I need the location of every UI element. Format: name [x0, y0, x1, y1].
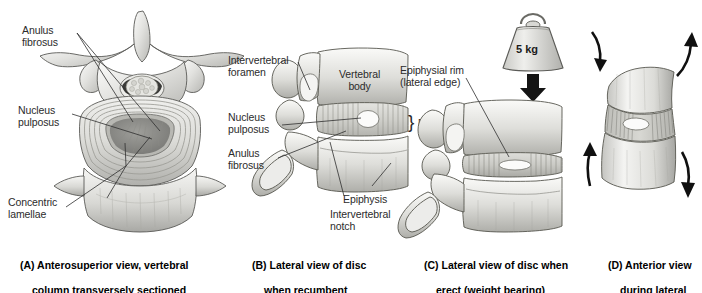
label-epiphysial-rim-c: Epiphysial rim (lateral edge)	[400, 64, 464, 88]
panel-d-illustration	[582, 0, 702, 240]
panel-b-caption-line-2: when recumbent	[252, 284, 402, 293]
weight-value-label: 5 kg	[516, 43, 538, 55]
anatomy-figure: Anulus fibrosus Nucleus pulposus Concent…	[0, 0, 702, 293]
panel-c-caption: (C) Lateral view of disc when erect (wei…	[424, 247, 594, 293]
label-anulus-fibrosus-a: Anulus fibrosus	[22, 24, 58, 48]
iv-disc-a	[79, 96, 200, 186]
panel-c-illustration: Epiphysial rim (lateral edge) 5 kg	[396, 0, 596, 240]
label-epiphysis-b: Epiphysis	[343, 193, 387, 205]
panel-c-caption-line-2: erect (weight bearing)	[424, 284, 594, 293]
arrow-top-left-icon	[592, 32, 607, 72]
panel-c-svg	[396, 0, 596, 240]
panel-a-caption-line-1: (A) Anterosuperior view, vertebral	[20, 259, 230, 271]
label-vertebral-body-b: Vertebral body	[339, 68, 380, 92]
panel-a-illustration: Anulus fibrosus Nucleus pulposus Concent…	[0, 0, 240, 240]
panel-a-caption-line-2: column transversely sectioned	[20, 284, 230, 293]
label-anulus-fibrosus-b: Anulus fibrosus	[228, 147, 264, 171]
label-nucleus-pulposus-b: Nucleus pulposus	[228, 111, 269, 135]
arrow-bottom-left-icon	[583, 142, 597, 186]
label-intervertebral-notch-b: Intervertebral notch	[330, 208, 390, 232]
panel-c-caption-line-1: (C) Lateral view of disc when	[424, 259, 594, 271]
panel-b-illustration: Intervertebral foramen Nucleus pulposus …	[226, 0, 416, 240]
label-nucleus-pulposus-a: Nucleus pulposus	[18, 104, 59, 128]
iv-disc-b	[317, 103, 409, 136]
iv-disc-c	[463, 153, 563, 177]
load-arrow-icon	[520, 74, 546, 102]
panel-d-caption: (D) Anterior view during lateral flexion	[608, 247, 702, 293]
arrow-top-right-icon	[677, 32, 698, 76]
panel-d-caption-line-1: (D) Anterior view	[608, 259, 702, 271]
panel-a-caption: (A) Anterosuperior view, vertebral colum…	[20, 247, 230, 293]
arrow-bottom-right-icon	[681, 152, 695, 198]
panel-d-caption-line-2: during lateral	[608, 284, 702, 293]
panel-d-svg	[582, 0, 702, 240]
label-intervertebral-foramen-b: Intervertebral foramen	[228, 54, 288, 78]
panel-b-caption-line-1: (B) Lateral view of disc	[252, 259, 402, 271]
panel-b-caption: (B) Lateral view of disc when recumbent	[252, 247, 402, 293]
label-concentric-lamellae-a: Concentric lamellae	[8, 196, 57, 220]
